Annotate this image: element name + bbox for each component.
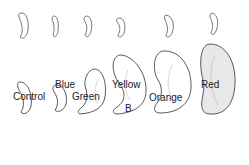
label-red: Red [201,79,219,90]
small-bean-blue [52,16,58,37]
bean-orange [154,51,191,113]
small-bean-orange [165,15,174,37]
label-orange: Orange [149,92,182,103]
small-bean-red [210,13,218,35]
label-blue: Blue [55,79,75,90]
small-bean-yellow [117,18,125,37]
panel-label: B [125,103,132,114]
small-bean-control [19,13,29,38]
label-green: Green [72,91,100,102]
label-yellow: Yellow [112,79,141,90]
label-control: Control [13,91,45,102]
small-bean-green [84,16,92,37]
